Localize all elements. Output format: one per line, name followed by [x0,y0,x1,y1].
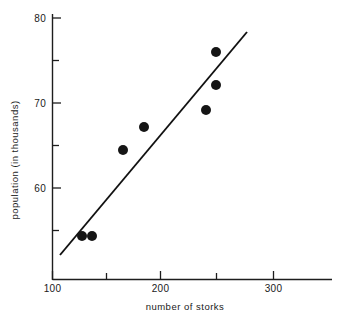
data-point [211,80,221,90]
y-axis-major-ticks [53,18,62,188]
x-axis-major-ticks [53,271,274,280]
chart-figure: 80 70 60 100 200 300 number of storks po… [0,0,344,319]
data-point [211,47,221,57]
x-axis-title: number of storks [146,301,225,312]
data-point [77,231,87,241]
data-point [201,105,211,115]
scatter-plot: 80 70 60 100 200 300 number of storks po… [0,0,344,319]
data-point [118,145,128,155]
y-tick-label-80: 80 [34,13,46,24]
data-point [87,231,97,241]
x-tick-label-100: 100 [44,283,62,294]
data-point [139,122,149,132]
x-axis-minor-ticks [107,273,217,280]
y-axis-title: population (in thousands) [9,100,20,219]
regression-line [60,32,247,255]
y-tick-label-70: 70 [34,98,46,109]
x-tick-label-300: 300 [265,283,283,294]
data-point-group [77,47,221,241]
y-axis-minor-ticks [53,61,60,231]
x-tick-label-200: 200 [152,283,170,294]
y-tick-label-60: 60 [34,183,46,194]
